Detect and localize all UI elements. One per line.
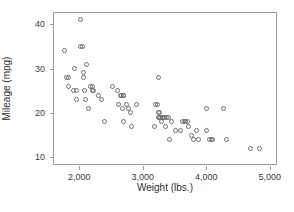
data-point <box>178 128 183 133</box>
y-axis-tick-label: 30 <box>35 63 45 74</box>
data-point <box>163 124 168 129</box>
x-axis-label-text: Weight (lbs.) <box>137 182 193 193</box>
data-point <box>152 124 157 129</box>
y-axis-tick-label: 20 <box>35 107 45 118</box>
data-point <box>128 110 133 115</box>
y-axis-label-text: Mileage (mpg) <box>2 57 13 121</box>
data-point <box>134 102 139 107</box>
data-point <box>78 17 83 22</box>
data-point <box>82 88 87 93</box>
x-axis-label: Weight (lbs.) <box>53 182 277 193</box>
data-point <box>167 137 172 142</box>
data-point <box>224 137 229 142</box>
data-point <box>66 84 71 89</box>
data-point <box>74 97 79 102</box>
data-point <box>121 119 126 124</box>
data-point <box>248 146 253 151</box>
y-axis-tick <box>50 157 54 158</box>
x-axis-tick <box>143 166 144 170</box>
data-point <box>257 146 262 151</box>
x-axis-tick <box>79 166 80 170</box>
data-point <box>221 106 226 111</box>
data-point <box>156 75 161 80</box>
data-point <box>83 97 88 102</box>
data-point <box>204 106 209 111</box>
data-point <box>110 84 115 89</box>
data-point <box>121 93 126 98</box>
data-point <box>204 128 209 133</box>
y-axis-tick <box>50 69 54 70</box>
data-point <box>91 88 96 93</box>
data-point <box>99 97 104 102</box>
data-point <box>66 75 71 80</box>
scatter-plot-figure: Mileage (mpg) 2,0003,0004,0005,000102030… <box>0 0 294 212</box>
x-axis-tick <box>270 166 271 170</box>
y-axis-tick-label: 40 <box>35 19 45 30</box>
y-axis-tick-label: 10 <box>35 152 45 163</box>
y-axis-tick <box>50 113 54 114</box>
plot-area: 2,0003,0004,0005,00010203040 <box>53 12 277 165</box>
data-point <box>169 119 174 124</box>
data-point <box>102 119 107 124</box>
y-axis-tick <box>50 24 54 25</box>
data-point <box>129 124 134 129</box>
data-point <box>74 88 79 93</box>
data-point <box>196 137 201 142</box>
y-axis-label: Mileage (mpg) <box>0 12 14 165</box>
data-point <box>210 137 215 142</box>
data-point <box>86 106 91 111</box>
data-point <box>155 102 160 107</box>
x-axis-tick <box>206 166 207 170</box>
data-point <box>120 106 125 111</box>
data-point <box>72 66 77 71</box>
data-point <box>80 44 85 49</box>
data-point <box>81 75 86 80</box>
data-point <box>84 62 89 67</box>
data-point <box>62 48 67 53</box>
data-points-layer <box>54 13 276 164</box>
data-point <box>194 128 199 133</box>
data-point <box>186 124 191 129</box>
